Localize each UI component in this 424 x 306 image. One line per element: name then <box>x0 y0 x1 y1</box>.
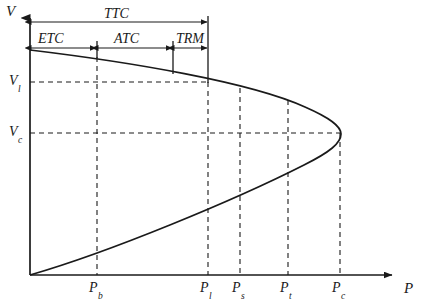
y-tick-vl-base: V <box>9 73 18 88</box>
x-tick-label-pc: Pc <box>332 281 345 298</box>
x-tick-label-ps: Ps <box>232 281 244 298</box>
span-label-ttc: TTC <box>104 7 129 21</box>
y-tick-vl-sub: l <box>18 84 21 94</box>
guide-lines <box>30 57 340 275</box>
x-tick-label-pt: Pt <box>280 281 291 298</box>
span-label-etc: ETC <box>38 32 64 46</box>
x-tick-pl-base: P <box>200 280 209 295</box>
x-tick-ps-base: P <box>232 280 241 295</box>
curve-upper-branch <box>30 50 341 134</box>
x-tick-ps-sub: s <box>241 291 245 301</box>
x-tick-label-pb: Pb <box>89 281 102 298</box>
x-tick-label-pl: Pl <box>200 281 211 298</box>
span-label-atc: ATC <box>114 32 139 46</box>
x-tick-pc-base: P <box>332 280 341 295</box>
x-tick-pc-sub: c <box>341 291 345 301</box>
y-tick-label-vl: Vl <box>9 74 20 91</box>
pv-curve-figure: V P Vl Vc Pb Pl Ps Pt Pc TTC ETC ATC TRM <box>0 0 424 306</box>
pv-nose-curve <box>30 50 341 275</box>
x-tick-pt-base: P <box>280 280 289 295</box>
span-label-trm: TRM <box>176 32 204 46</box>
y-tick-vc-base: V <box>9 124 18 139</box>
y-tick-vc-sub: c <box>18 135 22 145</box>
y-tick-label-vc: Vc <box>9 125 22 142</box>
x-tick-pl-sub: l <box>209 291 212 301</box>
y-axis-label: V <box>6 4 15 19</box>
x-tick-pb-base: P <box>89 280 98 295</box>
x-tick-pb-sub: b <box>98 291 103 301</box>
curve-lower-branch <box>30 134 341 275</box>
x-axis-label: P <box>404 281 413 296</box>
x-tick-pt-sub: t <box>289 291 292 301</box>
